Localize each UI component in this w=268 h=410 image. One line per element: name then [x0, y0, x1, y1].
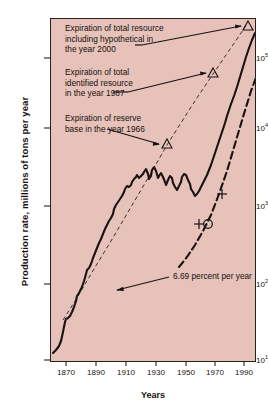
triangle-marker-total-resource [243, 21, 253, 30]
figure-log-production-rate: Production rate, millions of tons per ye… [0, 0, 268, 410]
plus-marker-lower [194, 219, 204, 229]
annotation-total-identified-resource: Expiration of total identified resource … [65, 67, 133, 99]
growth-rate-leader-line [117, 277, 169, 290]
annotation-total-resource-hypothetical: Expiration of total resource including h… [65, 23, 164, 55]
annotation-arrowheads [153, 25, 242, 146]
triangle-marker-reserve-base [162, 139, 172, 148]
growth-rate-arrowhead [116, 287, 124, 291]
plot-area: Expiration of total resource including h… [50, 18, 256, 362]
projected-production-curve [179, 75, 256, 267]
annotation-reserve-base: Expiration of reserve base in the year 1… [65, 113, 145, 134]
annotation-growth-rate: 6.69 percent per year [173, 271, 252, 282]
